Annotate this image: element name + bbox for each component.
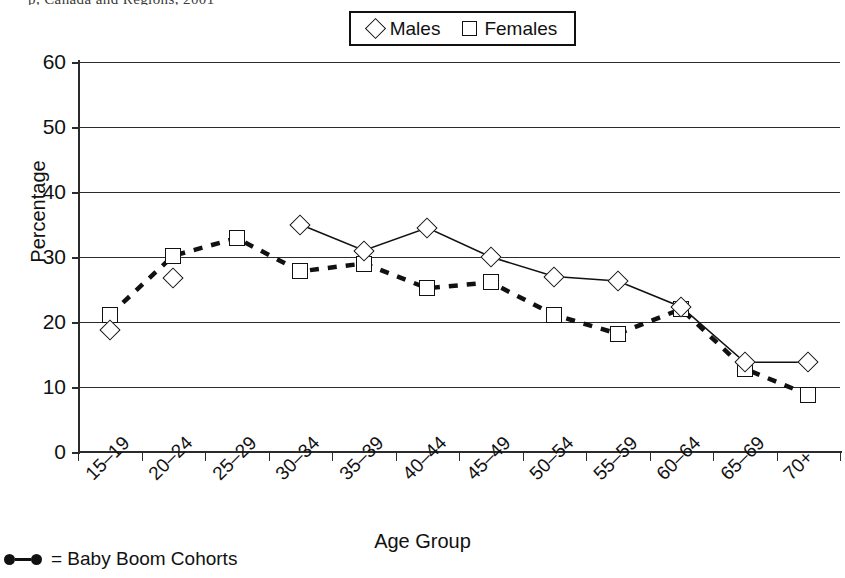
x-axis-tick-label: 65–69 (717, 433, 768, 484)
x-axis-tick (142, 452, 143, 461)
data-point-females (165, 248, 181, 264)
data-point-females (229, 230, 245, 246)
footnote-label: = Baby Boom Cohorts (51, 548, 237, 570)
series-line-males (300, 225, 808, 363)
gridline (78, 192, 840, 193)
y-axis-title: Percentage (27, 112, 50, 312)
gridline (78, 62, 840, 63)
diamond-outline-icon (365, 18, 386, 39)
x-axis-tick-label: 30–34 (272, 433, 323, 484)
x-axis-tick (586, 452, 587, 461)
data-point-females (610, 326, 626, 342)
x-axis-tick (205, 452, 206, 461)
gridline (78, 322, 840, 323)
x-axis-tick-label: 25–29 (209, 433, 260, 484)
gridline (78, 257, 840, 258)
x-axis-tick-label: 20–24 (145, 433, 196, 484)
data-point-females (292, 263, 308, 279)
y-axis-tick-label: 10 (22, 376, 66, 397)
y-axis-tick-label: 20 (22, 311, 66, 332)
filled-dot-right-icon (31, 554, 42, 565)
x-axis-tick (713, 452, 714, 461)
data-point-females (546, 307, 562, 323)
x-axis-tick (650, 452, 651, 461)
gridline (78, 387, 840, 388)
y-axis-tick-label: 60 (22, 51, 66, 72)
x-axis-tick (269, 452, 270, 461)
data-point-males (798, 352, 819, 373)
x-axis-tick-label: 15–19 (82, 433, 133, 484)
legend-label-females: Females (484, 19, 557, 38)
data-point-females (483, 274, 499, 290)
data-point-males (607, 270, 628, 291)
data-point-males (544, 266, 565, 287)
chart-legend: Males Females (349, 11, 576, 46)
x-axis-tick-label: 55–59 (590, 433, 641, 484)
connector-line-icon (15, 558, 31, 561)
y-axis-tick (72, 62, 80, 64)
gridline (78, 127, 840, 128)
y-axis-tick-label: 0 (22, 441, 66, 462)
x-axis-tick-label: 50–54 (526, 433, 577, 484)
data-point-males (290, 214, 311, 235)
x-axis-tick-label: 45–49 (463, 433, 514, 484)
x-axis-tick-label: 60–64 (653, 433, 704, 484)
cropped-title-remnant: p, Canada and Regions, 2001 (28, 0, 548, 5)
data-point-males (480, 246, 501, 267)
chart-canvas: p, Canada and Regions, 2001 Males Female… (0, 0, 845, 578)
x-axis-tick (459, 452, 460, 461)
square-outline-icon (462, 21, 477, 36)
legend-entry-males: Males (368, 19, 441, 38)
data-point-females (800, 387, 816, 403)
series-line-females (110, 238, 809, 395)
x-axis-tick (396, 452, 397, 461)
x-axis-tick (78, 452, 79, 461)
legend-label-males: Males (390, 19, 441, 38)
x-axis-tick (840, 452, 841, 461)
x-axis-tick (523, 452, 524, 461)
x-axis-tick-label: 40–44 (399, 433, 450, 484)
data-point-females (419, 280, 435, 296)
y-axis-tick (72, 257, 80, 259)
footnote: = Baby Boom Cohorts (4, 548, 237, 570)
x-axis-line (78, 451, 842, 453)
x-axis-tick-label: 35–39 (336, 433, 387, 484)
data-point-males (417, 217, 438, 238)
x-axis-tick (777, 452, 778, 461)
y-axis-tick (72, 127, 80, 129)
x-axis-tick (332, 452, 333, 461)
y-axis-tick (72, 192, 80, 194)
data-point-males (163, 268, 184, 289)
y-axis-tick (72, 322, 80, 324)
filled-dot-left-icon (4, 554, 15, 565)
legend-entry-females: Females (462, 19, 557, 38)
y-axis-tick (72, 387, 80, 389)
